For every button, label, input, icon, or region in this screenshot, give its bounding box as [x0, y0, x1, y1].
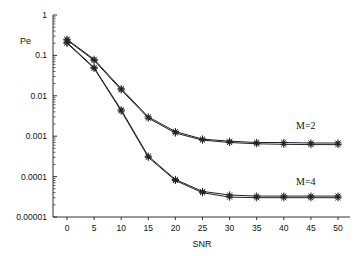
x-tick-label: 35: [252, 223, 262, 233]
asterisk-marker-icon: [307, 194, 314, 201]
asterisk-marker-icon: [63, 40, 70, 47]
asterisk-marker-icon: [118, 86, 125, 93]
x-axis-label: SNR: [192, 239, 212, 249]
x-tick-label: 0: [65, 223, 70, 233]
x-tick-label: 25: [198, 223, 208, 233]
y-tick-label: 0.1: [35, 50, 47, 60]
asterisk-marker-icon: [145, 154, 152, 161]
x-tick-label: 20: [171, 223, 181, 233]
y-tick-label: 0.001: [26, 131, 48, 141]
x-tick-label: 5: [92, 223, 97, 233]
y-tick-label: 0.00001: [16, 212, 47, 222]
y-axis-label: Pe: [20, 36, 31, 46]
asterisk-marker-icon: [172, 177, 179, 184]
asterisk-marker-icon: [145, 115, 152, 122]
asterisk-marker-icon: [118, 107, 125, 114]
x-tick-label: 45: [306, 223, 316, 233]
x-tick-label: 30: [225, 223, 235, 233]
x-tick-label: 10: [116, 223, 126, 233]
asterisk-marker-icon: [199, 137, 206, 144]
x-tick-label: 50: [333, 223, 343, 233]
asterisk-marker-icon: [253, 194, 260, 201]
asterisk-marker-icon: [199, 189, 206, 196]
x-tick-label: 40: [279, 223, 289, 233]
asterisk-marker-icon: [334, 194, 341, 201]
annotation-m2: M=2: [296, 120, 316, 131]
y-tick-label: 0.0001: [21, 172, 47, 182]
asterisk-marker-icon: [172, 129, 179, 136]
asterisk-marker-icon: [226, 194, 233, 201]
asterisk-marker-icon: [91, 57, 98, 64]
asterisk-marker-icon: [91, 65, 98, 72]
asterisk-marker-icon: [253, 140, 260, 147]
asterisk-marker-icon: [226, 139, 233, 146]
y-tick-label: 1: [42, 10, 47, 20]
x-tick-label: 15: [144, 223, 154, 233]
asterisk-marker-icon: [334, 141, 341, 148]
y-tick-label: 0.01: [30, 91, 47, 101]
annotation-m4: M=4: [296, 176, 316, 187]
asterisk-marker-icon: [280, 141, 287, 148]
chart: 10.10.010.0010.00010.0000105101520253035…: [0, 0, 359, 256]
asterisk-marker-icon: [280, 194, 287, 201]
asterisk-marker-icon: [307, 141, 314, 148]
